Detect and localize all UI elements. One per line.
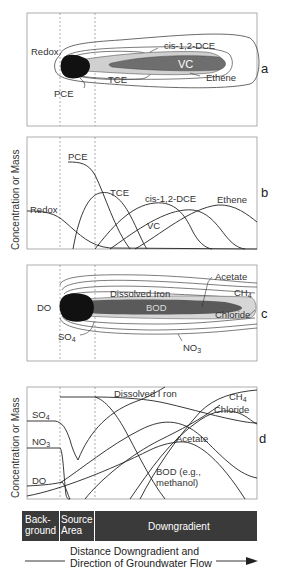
panel-d-letter: d — [259, 431, 266, 446]
x-axis-label-line2: Direction of Groundwater Flow — [70, 557, 212, 569]
panel-d: Dissolved I ron CH4 Chloride SO4 NO3 Ace… — [27, 387, 266, 499]
chloride-label: Chloride — [215, 309, 250, 320]
dce-label: cis-1,2-DCE — [164, 40, 215, 51]
zone-background-label-1: Back- — [25, 514, 51, 525]
dce-label: cis-1,2-DCE — [145, 193, 196, 204]
panel-c: DO Acetate Dissolved Iron CH4 BOD Chlori… — [27, 265, 268, 361]
x-axis-caption: Distance Downgradient and Direction of G… — [25, 545, 258, 569]
bod-label: BOD — [146, 302, 167, 313]
redox-label: Redox — [30, 204, 58, 215]
acetate-label: Acetate — [215, 271, 247, 282]
tce-label: TCE — [110, 187, 129, 198]
pce-label: PCE — [68, 151, 88, 162]
panel-c-letter: c — [261, 306, 268, 321]
panel-b-letter: b — [261, 185, 268, 200]
iron-label: Dissolved Iron — [110, 288, 170, 299]
do-label: DO — [32, 475, 46, 486]
vc-label: VC — [178, 58, 193, 70]
zone-source-label-1: Source — [61, 514, 93, 525]
chloride-label: Chloride — [214, 404, 249, 415]
natural-attenuation-figure: Redox PCE TCE cis-1,2-DCE VC Ethene a PC… — [0, 0, 281, 575]
ethene-label: Ethene — [206, 72, 236, 83]
iron-label: Dissolved I ron — [114, 388, 177, 399]
panel-b: PCE TCE cis-1,2-DCE VC Ethene Redox b — [27, 137, 268, 249]
flow-arrow-head-icon — [246, 557, 258, 565]
tce-label: TCE — [108, 74, 127, 85]
zone-background-label-2: ground — [25, 525, 56, 536]
pce-label: PCE — [54, 88, 74, 99]
zone-bar: Back- ground Source Area Downgradient — [22, 511, 257, 541]
bod-label-line1: BOD (e.g., — [156, 466, 201, 477]
x-axis-label-line1: Distance Downgradient and — [70, 545, 199, 557]
panel-a: Redox PCE TCE cis-1,2-DCE VC Ethene a — [27, 13, 269, 126]
y-axis-label-top: Concentration or Mass — [10, 149, 21, 250]
source-blob — [60, 293, 94, 322]
bod-label-line2: methanol) — [156, 477, 198, 488]
acetate-label: Acetate — [176, 433, 208, 444]
zone-downgradient-label: Downgradient — [148, 521, 210, 532]
vc-label: VC — [147, 220, 160, 231]
y-axis-label-bottom: Concentration or Mass — [10, 397, 21, 498]
zone-source-label-2: Area — [61, 525, 83, 536]
panel-a-letter: a — [261, 61, 269, 76]
ethene-label: Ethene — [217, 194, 247, 205]
redox-label: Redox — [31, 46, 59, 57]
do-label: DO — [37, 302, 51, 313]
